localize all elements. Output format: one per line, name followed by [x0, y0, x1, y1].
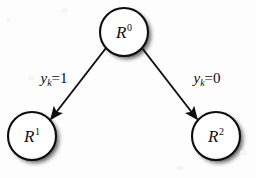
node-r0-base: R: [116, 23, 126, 42]
edge-root-to-r2-line: [142, 48, 197, 119]
edge-left-value: =1: [52, 70, 68, 86]
node-r1-label: R1: [24, 127, 40, 147]
edge-root-to-r1-label: yk=1: [40, 70, 67, 87]
edges: [51, 48, 197, 119]
node-r2-base: R: [208, 127, 218, 146]
node-r2-label: R2: [208, 127, 224, 147]
edge-left-subscript: k: [47, 77, 51, 88]
node-r0-superscript: 0: [127, 22, 132, 33]
edge-left-variable: y: [40, 70, 47, 86]
node-r1-superscript: 1: [35, 126, 40, 137]
edge-right-subscript: k: [200, 77, 204, 88]
edge-right-variable: y: [193, 70, 200, 86]
tree-diagram-figure: R0 R1 R2 yk=1 yk=0: [0, 0, 256, 178]
node-r1-base: R: [24, 127, 34, 146]
edge-right-value: =0: [205, 70, 221, 86]
node-r0-label: R0: [116, 23, 132, 43]
edge-root-to-r2-label: yk=0: [193, 70, 220, 87]
node-r2-superscript: 2: [219, 126, 224, 137]
